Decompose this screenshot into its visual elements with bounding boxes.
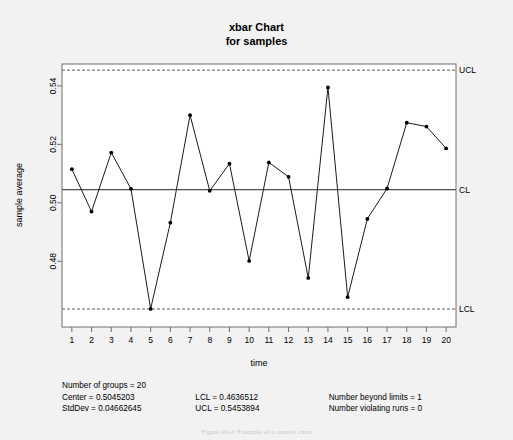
data-point	[405, 121, 409, 125]
x-tick-label: 5	[148, 335, 153, 345]
x-tick-label: 18	[402, 335, 412, 345]
x-tick-label: 2	[89, 335, 94, 345]
stats-blank-1	[195, 380, 328, 392]
data-point	[129, 187, 133, 191]
stats-row: StdDev = 0.04662645 UCL = 0.5453894 Numb…	[62, 403, 462, 415]
y-axis-label: sample average	[14, 163, 24, 227]
reference-label-ucl: UCL	[459, 65, 476, 75]
stats-row: Number of groups = 20	[62, 380, 462, 392]
x-tick-label: 12	[284, 335, 294, 345]
data-point	[188, 113, 192, 117]
data-point	[346, 295, 350, 299]
data-point	[444, 147, 448, 151]
data-point	[267, 161, 271, 165]
x-tick-label: 14	[323, 335, 333, 345]
data-point	[425, 125, 429, 129]
y-tick-label: 0.54	[48, 77, 58, 94]
data-point	[228, 162, 232, 166]
reference-label-lcl: LCL	[459, 304, 475, 314]
data-point	[306, 276, 310, 280]
figure-page: xbar Chart for samples 0.480.500.520.54 …	[0, 0, 513, 440]
x-tick-label: 4	[129, 335, 134, 345]
x-tick-label: 6	[168, 335, 173, 345]
stats-violating-runs: Number violating runs = 0	[329, 403, 462, 415]
reference-label-cl: CL	[459, 185, 470, 195]
data-point	[365, 217, 369, 221]
stats-ucl: UCL = 0.5453894	[195, 403, 328, 415]
x-tick-label: 9	[227, 335, 232, 345]
x-tick-label: 7	[188, 335, 193, 345]
x-tick-label: 3	[109, 335, 114, 345]
x-tick-label: 1	[69, 335, 74, 345]
x-tick-label: 16	[363, 335, 373, 345]
data-point	[385, 187, 389, 191]
y-tick-label: 0.52	[48, 136, 58, 153]
x-tick-label: 8	[207, 335, 212, 345]
stats-lcl: LCL = 0.4636512	[195, 392, 328, 404]
x-axis-label: time	[250, 358, 267, 368]
y-axis-ticks: 0.480.500.520.54	[48, 77, 62, 269]
data-point	[149, 307, 153, 311]
stats-center: Center = 0.5045203	[62, 392, 195, 404]
control-chart-plot: 0.480.500.520.54 12345678910111213141516…	[0, 0, 513, 380]
data-point	[90, 210, 94, 214]
stats-blank-2	[329, 380, 462, 392]
stats-stddev: StdDev = 0.04662645	[62, 403, 195, 415]
data-point	[70, 167, 74, 171]
chart-canvas: xbar Chart for samples 0.480.500.520.54 …	[0, 0, 513, 424]
stats-row: Center = 0.5045203 LCL = 0.4636512 Numbe…	[62, 392, 462, 404]
data-point	[326, 85, 330, 89]
figure-caption: Figure 20.4: Exemple of a control chart	[0, 428, 513, 436]
x-tick-label: 13	[304, 335, 314, 345]
x-axis-ticks: 1234567891011121314151617181920	[69, 327, 451, 345]
plot-panel	[62, 64, 456, 327]
x-tick-label: 20	[441, 335, 451, 345]
stats-groups: Number of groups = 20	[62, 380, 195, 392]
y-tick-label: 0.50	[48, 194, 58, 211]
data-point	[208, 189, 212, 193]
data-point	[247, 259, 251, 263]
x-tick-label: 15	[343, 335, 353, 345]
x-tick-label: 10	[244, 335, 254, 345]
x-tick-label: 19	[422, 335, 432, 345]
x-tick-label: 17	[382, 335, 392, 345]
reference-line-labels: UCLCLLCL	[459, 65, 476, 314]
statistics-block: Number of groups = 20 Center = 0.5045203…	[62, 380, 462, 415]
data-point	[168, 221, 172, 225]
data-point	[287, 175, 291, 179]
data-point	[109, 151, 113, 155]
x-tick-label: 11	[264, 335, 273, 345]
stats-beyond-limits: Number beyond limits = 1	[329, 392, 462, 404]
y-tick-label: 0.48	[48, 253, 58, 270]
